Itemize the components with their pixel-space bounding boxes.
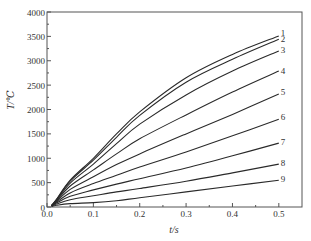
series-line-6 [52, 119, 279, 206]
y-tick-label: 500 [32, 178, 46, 188]
series-label-6: 6 [281, 112, 286, 122]
x-tick-label: 0.1 [88, 209, 99, 219]
series-line-1 [52, 36, 279, 206]
series-label-9: 9 [281, 174, 286, 184]
x-tick-label: 0.0 [41, 209, 53, 219]
series-label-8: 8 [281, 158, 286, 168]
y-tick-label: 2500 [27, 81, 46, 91]
y-axis-label: T/℃ [5, 90, 16, 110]
series-line-5 [52, 94, 279, 206]
x-tick-label: 0.5 [273, 209, 285, 219]
series-label-3: 3 [281, 45, 286, 55]
y-tick-label: 2000 [27, 105, 46, 115]
y-tick-label: 3500 [27, 32, 46, 42]
x-tick-label: 0.2 [134, 209, 145, 219]
y-tick-label: 4000 [27, 8, 46, 18]
x-tick-label: 0.4 [227, 209, 239, 219]
series-labels: 123456789 [281, 28, 286, 183]
y-tick-label: 1500 [27, 129, 46, 139]
series-label-5: 5 [281, 87, 286, 97]
series-label-4: 4 [281, 66, 286, 76]
series-label-2: 2 [281, 34, 286, 44]
series-label-7: 7 [281, 137, 286, 147]
x-axis-label: t/s [169, 224, 179, 235]
temperature-time-chart: 05001000150020002500300035004000 0.00.10… [0, 0, 311, 241]
y-tick-label: 1000 [27, 154, 46, 164]
x-axis: 0.00.10.20.30.40.5 [41, 203, 285, 219]
series-line-3 [52, 51, 279, 206]
x-tick-label: 0.3 [180, 209, 192, 219]
data-series [52, 36, 279, 207]
series-line-4 [52, 71, 279, 206]
y-tick-label: 3000 [27, 56, 46, 66]
